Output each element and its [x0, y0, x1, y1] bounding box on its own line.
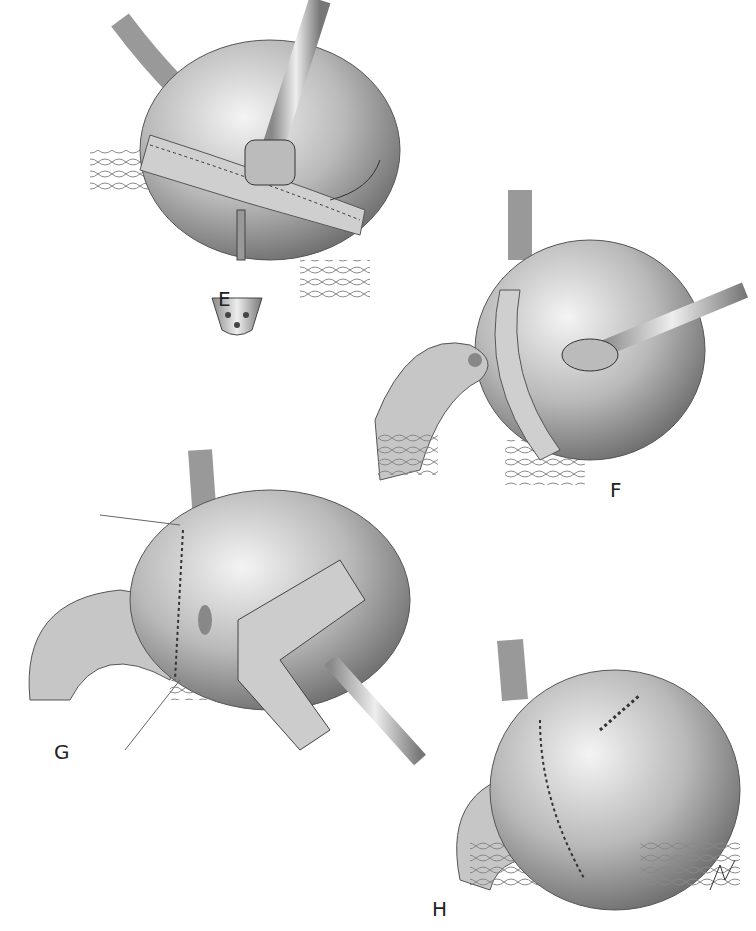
panel-e-illustration: [90, 0, 400, 335]
panel-label-h: H: [432, 897, 447, 921]
panel-label-g: G: [54, 740, 70, 764]
panel-label-e: E: [218, 287, 231, 311]
panel-f-illustration: [375, 190, 745, 485]
panel-label-f: F: [610, 478, 622, 502]
illustration-canvas: [0, 0, 756, 931]
panel-g-illustration: [29, 450, 420, 760]
panel-h-illustration: [457, 640, 740, 910]
